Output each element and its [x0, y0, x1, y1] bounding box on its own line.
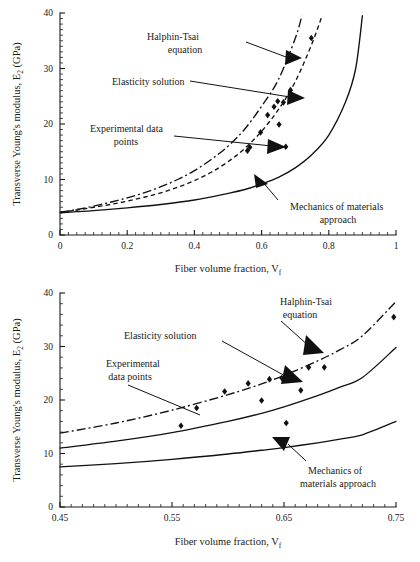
top-x-axis-title: Fiber volume fraction, Vf: [175, 263, 282, 277]
arrowhead-experimental: [267, 139, 286, 154]
x-tick-label: 0: [58, 241, 63, 251]
annotation-mechanics-line2: approach: [320, 214, 357, 225]
curve-mechanics-of-materials: [60, 16, 362, 213]
arrowhead-elasticity: [287, 90, 305, 105]
x-tick-label: 0.45: [52, 513, 69, 523]
data-point: [194, 405, 199, 412]
data-point: [298, 387, 303, 394]
annotation-halphin-tsai-line1: Halphin-Tsai: [280, 296, 332, 307]
top-chart-svg: 010203040 00.20.40.60.81 Halphin: [0, 0, 420, 281]
data-point: [222, 388, 227, 395]
chart-panel-bottom: 010203040 0.450.550.650.75 Halphin-Tsai …: [0, 281, 420, 562]
top-y-ticks: 010203040: [44, 8, 66, 240]
x-tick-label: 0.8: [323, 241, 335, 251]
x-tick-label: 0.2: [121, 241, 133, 251]
x-tick-label: 0.55: [164, 513, 181, 523]
experimental-data-points-group: [245, 35, 314, 154]
data-point: [271, 103, 276, 110]
top-x-ticks: 00.20.40.60.81: [58, 230, 399, 251]
annotation-experimental-line2: data points: [108, 371, 152, 382]
data-point: [322, 364, 327, 371]
data-point: [391, 314, 396, 321]
annotation-mechanics-line2: materials approach: [300, 478, 376, 489]
data-point: [265, 112, 270, 119]
top-annotation-leaders: [174, 42, 305, 200]
data-point: [246, 380, 251, 387]
y-tick-label: 0: [48, 230, 53, 240]
annotation-halphin-tsai-line2: equation: [168, 44, 202, 55]
arrowhead-halphin-tsai: [285, 50, 302, 65]
annotation-experimental-line1: Experimental: [106, 358, 160, 369]
annotation-elasticity-solution: Elasticity solution: [124, 330, 197, 341]
data-point: [275, 98, 280, 105]
leader-mechanics: [288, 444, 306, 461]
x-tick-label: 0.4: [188, 241, 200, 251]
y-tick-label: 30: [44, 342, 54, 352]
annotation-halphin-tsai-line2: equation: [283, 309, 317, 320]
annotation-mechanics-line1: Mechanics of materials: [290, 201, 383, 212]
y-tick-label: 40: [44, 288, 54, 298]
y-tick-label: 20: [44, 395, 54, 405]
annotation-halphin-tsai-line1: Halphin-Tsai: [147, 31, 199, 42]
figure-stack: 010203040 00.20.40.60.81 Halphin: [0, 0, 420, 562]
data-point: [276, 121, 281, 128]
annotation-mechanics-line1: Mechanics of: [308, 465, 363, 476]
x-tick-label: 0.75: [388, 513, 405, 523]
bottom-y-ticks: 010203040: [44, 288, 66, 512]
data-point: [259, 397, 264, 404]
data-point: [178, 422, 183, 429]
y-tick-label: 40: [44, 8, 54, 18]
bottom-x-ticks: 0.450.550.650.75: [52, 502, 405, 523]
arrowhead-halphin-tsai: [303, 335, 324, 355]
y-tick-label: 10: [44, 175, 54, 185]
y-tick-label: 30: [44, 64, 54, 74]
bottom-chart-svg: 010203040 0.450.550.650.75 Halphin-Tsai …: [0, 281, 420, 562]
annotation-experimental-line2: points: [114, 136, 139, 147]
data-point: [284, 420, 289, 427]
leader-elasticity: [222, 341, 287, 377]
y-tick-label: 10: [44, 449, 54, 459]
annotation-elasticity-solution: Elasticity solution: [112, 76, 185, 87]
bottom-x-axis-title: Fiber volume fraction, Vf: [175, 536, 282, 550]
y-tick-label: 20: [44, 119, 54, 129]
x-tick-label: 0.65: [276, 513, 293, 523]
curve-mechanics-of-materials: [60, 421, 396, 466]
bottom-y-axis-title: Transverse Young's modulus, E2 (GPa): [11, 318, 25, 482]
chart-panel-top: 010203040 00.20.40.60.81 Halphin: [0, 0, 420, 281]
x-tick-label: 0.6: [256, 241, 268, 251]
leader-elasticity: [190, 81, 290, 97]
top-y-axis-title: Transverse Young's modulus, E2 (GPa): [11, 42, 25, 206]
leader-experimental: [174, 136, 272, 146]
arrowhead-elasticity: [281, 365, 303, 384]
leader-experimental: [128, 385, 200, 415]
y-tick-label: 0: [48, 502, 53, 512]
leader-halphin-tsai: [246, 42, 286, 57]
x-tick-label: 1: [394, 241, 399, 251]
annotation-experimental-line1: Experimental data: [90, 123, 164, 134]
data-point: [267, 376, 272, 383]
